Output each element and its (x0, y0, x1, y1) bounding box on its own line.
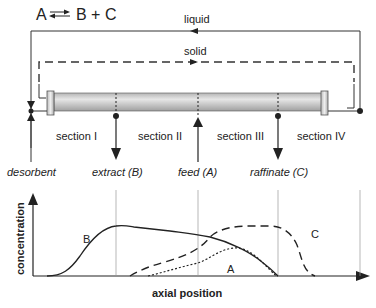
curve-B (47, 226, 278, 276)
feed-arrow-icon (193, 117, 203, 127)
smb-reactor-diagram: A B + C liquid solid (0, 0, 376, 308)
products-label: B + C (76, 6, 116, 23)
curve-C-label: C (311, 228, 319, 240)
curve-C (130, 226, 315, 276)
section-3-label: section III (217, 130, 264, 142)
raffinate-arrow-icon (273, 148, 283, 160)
desorbent-inlet (27, 101, 47, 162)
feed-port (193, 117, 203, 162)
extract-arrow-icon (111, 148, 121, 160)
extract-label: extract (B) (92, 166, 143, 178)
equilibrium-arrows-icon (49, 10, 70, 19)
x-axis-arrow-icon (356, 271, 370, 281)
liquid-direction-arrow-icon (190, 28, 198, 34)
feed-label: feed (A) (178, 166, 217, 178)
raffinate-port (273, 113, 283, 160)
chromatographic-column (47, 91, 328, 117)
solid-label: solid (184, 45, 207, 57)
curve-B-label: B (83, 233, 90, 245)
section-4-label: section IV (297, 130, 346, 142)
y-axis-arrow-icon (28, 193, 38, 205)
right-junction (328, 108, 363, 114)
section-2-label: section II (138, 130, 182, 142)
x-axis-label: axial position (152, 287, 223, 299)
column-right-cap (321, 91, 328, 115)
solid-direction-arrow-icon (190, 59, 198, 65)
liquid-label: liquid (184, 13, 210, 25)
reactant-label: A (36, 6, 47, 23)
y-axis-label: concentration (14, 202, 26, 275)
reaction-equation: A B + C (36, 6, 116, 23)
desorbent-label: desorbent (7, 166, 57, 178)
liquid-flow-loop: liquid (31, 13, 360, 148)
curve-A-label: A (227, 263, 235, 275)
raffinate-label: raffinate (C) (250, 166, 308, 178)
extract-port (111, 113, 121, 160)
concentration-profile-chart: concentration axial position B A C (14, 190, 370, 299)
section-1-label: section I (56, 130, 97, 142)
column-left-cap (47, 91, 54, 115)
